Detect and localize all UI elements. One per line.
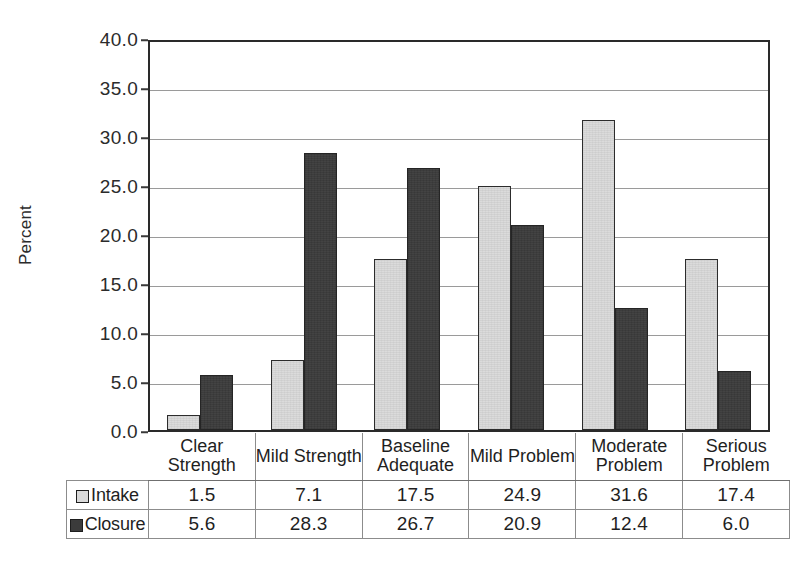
value-intake-mild-problem: 24.9 — [469, 481, 576, 510]
bar-closure-mild-strength — [304, 153, 337, 430]
table-corner-cell — [67, 433, 149, 481]
dark-gray-square-icon — [70, 519, 83, 532]
bars-layer — [150, 42, 768, 430]
bar-closure-serious-problem — [718, 371, 751, 430]
y-axis-tick-mark — [141, 186, 148, 188]
value-intake-moderate-problem: 31.6 — [576, 481, 683, 510]
y-axis-tick-mark — [141, 284, 148, 286]
y-axis-tick-label: 10.0 — [100, 323, 138, 345]
bar-group — [461, 42, 565, 430]
bar-intake-baseline-adequate — [374, 259, 407, 431]
y-axis-tick-label: 40.0 — [100, 29, 138, 51]
value-intake-mild-strength: 7.1 — [255, 481, 362, 510]
bar-closure-moderate-problem — [615, 308, 648, 430]
data-row-intake: Intake1.57.117.524.931.617.4 — [67, 481, 790, 510]
bar-intake-mild-strength — [271, 360, 304, 430]
value-closure-serious-problem: 6.0 — [683, 510, 790, 539]
category-label-row: ClearStrengthMild StrengthBaselineAdequa… — [67, 433, 790, 481]
y-axis-tick-mark — [141, 39, 148, 41]
bar-closure-mild-problem — [511, 225, 544, 430]
value-intake-clear-strength: 1.5 — [149, 481, 256, 510]
category-label-clear-strength: ClearStrength — [149, 433, 256, 481]
y-axis-tick-mark — [141, 382, 148, 384]
y-axis-tick-label: 30.0 — [100, 127, 138, 149]
legend-label-intake: Intake — [91, 485, 139, 505]
y-axis-ticks: 40.035.030.025.020.015.010.05.00.0 — [80, 40, 148, 432]
bar-chart-figure: Percent 40.035.030.025.020.015.010.05.00… — [0, 0, 811, 568]
legend-label-closure: Closure — [85, 514, 146, 534]
value-closure-baseline-adequate: 26.7 — [362, 510, 469, 539]
y-axis-tick-mark — [141, 137, 148, 139]
value-closure-mild-strength: 28.3 — [255, 510, 362, 539]
plot-area — [148, 40, 770, 432]
bar-group — [668, 42, 772, 430]
y-axis-tick-label: 15.0 — [100, 274, 138, 296]
category-label-mild-strength: Mild Strength — [255, 433, 362, 481]
bar-intake-moderate-problem — [582, 120, 615, 430]
y-axis-tick-label: 5.0 — [111, 372, 138, 394]
y-axis-tick-mark — [141, 235, 148, 237]
value-closure-clear-strength: 5.6 — [149, 510, 256, 539]
bar-group — [565, 42, 669, 430]
y-axis-tick-mark — [141, 88, 148, 90]
category-label-mild-problem: Mild Problem — [469, 433, 576, 481]
data-table-body: ClearStrengthMild StrengthBaselineAdequa… — [67, 433, 790, 539]
category-label-moderate-problem: ModerateProblem — [576, 433, 683, 481]
bar-group — [254, 42, 358, 430]
bar-intake-clear-strength — [167, 415, 200, 430]
bar-intake-mild-problem — [478, 186, 511, 430]
y-axis-title: Percent — [16, 150, 40, 320]
value-intake-serious-problem: 17.4 — [683, 481, 790, 510]
bar-closure-baseline-adequate — [407, 168, 440, 430]
category-label-baseline-adequate: BaselineAdequate — [362, 433, 469, 481]
value-closure-moderate-problem: 12.4 — [576, 510, 683, 539]
value-intake-baseline-adequate: 17.5 — [362, 481, 469, 510]
y-axis-tick-label: 25.0 — [100, 176, 138, 198]
data-table: ClearStrengthMild StrengthBaselineAdequa… — [66, 433, 790, 539]
category-label-serious-problem: SeriousProblem — [683, 433, 790, 481]
legend-item-closure[interactable]: Closure — [67, 510, 149, 539]
y-axis-tick-label: 35.0 — [100, 78, 138, 100]
y-axis-tick-label: 20.0 — [100, 225, 138, 247]
legend-item-intake[interactable]: Intake — [67, 481, 149, 510]
bar-closure-clear-strength — [200, 375, 233, 430]
value-closure-mild-problem: 20.9 — [469, 510, 576, 539]
y-axis-tick-mark — [141, 333, 148, 335]
bar-group — [357, 42, 461, 430]
bar-intake-serious-problem — [685, 259, 718, 430]
light-gray-square-icon — [76, 490, 89, 503]
bar-group — [150, 42, 254, 430]
data-row-closure: Closure5.628.326.720.912.46.0 — [67, 510, 790, 539]
